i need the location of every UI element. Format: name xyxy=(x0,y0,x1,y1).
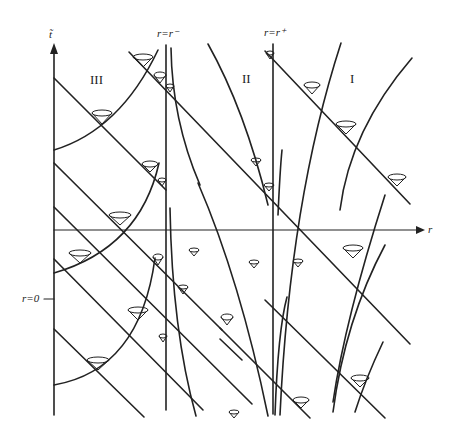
light-cone-icon xyxy=(351,375,369,387)
r-axis-label: r xyxy=(428,223,432,235)
light-cone-icon xyxy=(142,161,158,172)
light-cone-icon xyxy=(128,307,148,320)
t-axis-arrow-icon xyxy=(50,43,58,54)
t-axis-label: t̃ xyxy=(49,28,52,40)
null-line xyxy=(54,329,144,417)
spacetime-diagram: t̃ r r=0 r=r⁻ r=r⁺ III II I xyxy=(0,0,457,439)
null-line xyxy=(54,207,252,404)
worldline-curve xyxy=(333,245,385,412)
worldline-curve xyxy=(208,44,268,205)
light-cone-icon xyxy=(189,248,199,256)
light-cone-icon xyxy=(69,250,91,263)
light-cone-icon xyxy=(249,260,259,268)
null-line xyxy=(54,163,222,330)
light-cone-icon xyxy=(343,245,363,258)
worldline-curve xyxy=(278,150,282,215)
worldline-curve xyxy=(54,258,155,385)
light-cone-icon xyxy=(158,178,166,186)
light-cone-icon xyxy=(109,212,131,225)
region-I-label: I xyxy=(350,71,354,87)
light-cone-icon xyxy=(154,72,166,83)
worldline-curve xyxy=(170,208,196,416)
light-cone-icon xyxy=(178,285,188,294)
worldline-curve xyxy=(198,183,268,416)
region-III-label: III xyxy=(90,72,103,88)
horizon-r-plus-label: r=r⁺ xyxy=(264,26,286,39)
light-cone-icon xyxy=(304,82,320,94)
horizon-r-minus-label: r=r⁻ xyxy=(157,27,179,40)
worldline-curve xyxy=(171,48,200,185)
light-cone-icon xyxy=(293,259,303,267)
null-line xyxy=(54,78,166,190)
worldline-curve xyxy=(333,195,385,402)
null-line xyxy=(129,52,410,344)
light-cone-icon xyxy=(229,410,239,418)
diagram-lines xyxy=(0,0,457,439)
region-II-label: II xyxy=(242,71,251,87)
origin-label: r=0 xyxy=(22,292,39,304)
light-cone-icon xyxy=(92,110,112,124)
light-cone-icon xyxy=(293,397,309,408)
null-line xyxy=(265,51,410,204)
light-cone-icon xyxy=(221,314,233,325)
light-cone-icon xyxy=(336,121,356,134)
r-axis-arrow-icon xyxy=(416,226,425,234)
null-line xyxy=(220,339,242,360)
